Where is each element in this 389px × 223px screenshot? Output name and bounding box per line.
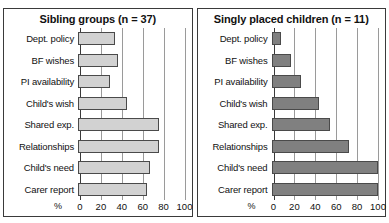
gridline <box>185 28 186 200</box>
bar-row: PI availability <box>6 74 185 89</box>
panel-title: Sibling groups (n = 37) <box>4 9 192 28</box>
bar-track <box>78 160 185 175</box>
bar[interactable] <box>78 140 159 153</box>
x-axis-tick-label: 100 <box>177 201 193 212</box>
bar-track <box>272 31 379 46</box>
x-axis-tick-label: 40 <box>310 201 321 212</box>
bar[interactable] <box>272 75 302 88</box>
bar[interactable] <box>272 183 379 196</box>
x-axis-tick-label: 0 <box>77 201 82 212</box>
x-axis-tick-label: 20 <box>96 201 107 212</box>
bar-row-label: Relationships <box>6 141 78 152</box>
bar-row-label: Carer report <box>200 184 272 195</box>
bar-row-label: Child's wish <box>200 98 272 109</box>
bar[interactable] <box>272 140 350 153</box>
bar-row-label: Child's wish <box>6 98 78 109</box>
x-axis-tick-label: 40 <box>117 201 128 212</box>
bar-row: Child's need <box>6 160 185 175</box>
plot-area: Dept. policy BF wishes PI availability C… <box>198 28 386 216</box>
bar-row: Shared exp. <box>6 117 185 132</box>
x-axis: % 020406080100 <box>6 200 185 216</box>
bars-region: Dept. policy BF wishes PI availability C… <box>200 28 379 200</box>
x-axis-tick-label: 100 <box>370 201 386 212</box>
bar-row-label: PI availability <box>200 76 272 87</box>
bar-row-label: Child's need <box>6 162 78 173</box>
bar-track <box>272 139 379 154</box>
bar-row-label: Carer report <box>6 184 78 195</box>
x-axis-tick-label: 60 <box>137 201 148 212</box>
x-axis-unit-label: % <box>54 201 62 211</box>
bar[interactable] <box>272 118 331 131</box>
bar-row-label: BF wishes <box>6 55 78 66</box>
bar-row: Shared exp. <box>200 117 379 132</box>
bar-track <box>272 53 379 68</box>
bar[interactable] <box>78 75 110 88</box>
bar-track <box>78 182 185 197</box>
bar-track <box>78 74 185 89</box>
bar-row-label: Shared exp. <box>6 119 78 130</box>
x-axis-ticks: 020406080100 <box>80 200 185 216</box>
bar-track <box>272 96 379 111</box>
bar[interactable] <box>78 54 118 67</box>
bar-track <box>272 74 379 89</box>
plot-area: Dept. policy BF wishes PI availability C… <box>4 28 192 216</box>
bar-row-label: Dept. policy <box>200 33 272 44</box>
x-axis-tick-label: 80 <box>158 201 169 212</box>
bar-row: Dept. policy <box>6 31 185 46</box>
bar-track <box>78 96 185 111</box>
x-axis: % 020406080100 <box>200 200 379 216</box>
bar-row-label: Child's need <box>200 162 272 173</box>
bar[interactable] <box>78 118 159 131</box>
bar[interactable] <box>78 97 127 110</box>
bar-row: Dept. policy <box>200 31 379 46</box>
bar-track <box>78 117 185 132</box>
x-axis-tick-label: 80 <box>352 201 363 212</box>
bar-row: BF wishes <box>200 53 379 68</box>
bar-track <box>272 182 379 197</box>
bar[interactable] <box>78 183 147 196</box>
bar-row-label: PI availability <box>6 76 78 87</box>
bar[interactable] <box>272 97 320 110</box>
chart-panel-singly-placed-children: Singly placed children (n = 11) Dept. po… <box>197 8 387 217</box>
bar[interactable] <box>78 161 150 174</box>
gridline <box>378 28 379 200</box>
panel-title: Singly placed children (n = 11) <box>198 9 386 28</box>
bar[interactable] <box>272 32 282 45</box>
bar-row: Child's wish <box>6 96 185 111</box>
bar-track <box>78 139 185 154</box>
bar[interactable] <box>272 161 379 174</box>
bar-row: Relationships <box>6 139 185 154</box>
bar-row: Carer report <box>200 182 379 197</box>
bar-track <box>78 53 185 68</box>
bar-row: Child's wish <box>200 96 379 111</box>
bar-row: Carer report <box>6 182 185 197</box>
bar-row: BF wishes <box>6 53 185 68</box>
bar-row: Child's need <box>200 160 379 175</box>
bar-track <box>272 160 379 175</box>
bar-row-label: Shared exp. <box>200 119 272 130</box>
bar[interactable] <box>78 32 115 45</box>
x-axis-tick-label: 0 <box>271 201 276 212</box>
bars-region: Dept. policy BF wishes PI availability C… <box>6 28 185 200</box>
chart-panel-sibling-groups: Sibling groups (n = 37) Dept. policy BF … <box>3 8 193 217</box>
bar-row-label: BF wishes <box>200 55 272 66</box>
bar-row: Relationships <box>200 139 379 154</box>
bar-track <box>78 31 185 46</box>
x-axis-unit-label: % <box>248 201 256 211</box>
bar-track <box>272 117 379 132</box>
bar-row: PI availability <box>200 74 379 89</box>
x-axis-tick-label: 20 <box>289 201 300 212</box>
bar[interactable] <box>272 54 291 67</box>
bar-row-label: Relationships <box>200 141 272 152</box>
figure-container: Sibling groups (n = 37) Dept. policy BF … <box>0 0 389 223</box>
x-axis-tick-label: 60 <box>331 201 342 212</box>
bar-row-label: Dept. policy <box>6 33 78 44</box>
x-axis-ticks: 020406080100 <box>274 200 379 216</box>
